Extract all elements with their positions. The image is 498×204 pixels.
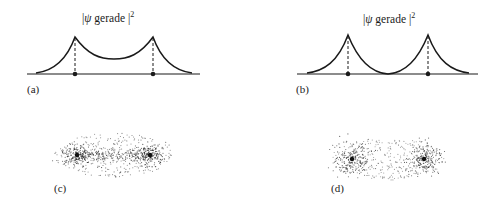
panel-b-nucleus-left — [346, 72, 351, 77]
panel-a-density-curve — [36, 37, 192, 73]
panel-a-nucleus-right — [151, 72, 156, 77]
panel-b-label: (b) — [296, 83, 309, 96]
panel-d-nucleus-left — [350, 157, 354, 161]
panel-c-nucleus-left — [75, 153, 79, 157]
panel-c-electron-cloud — [52, 133, 172, 178]
panel-d-label: (d) — [331, 182, 344, 195]
panel-a-title: |ψ gerade |2 — [82, 10, 134, 25]
panel-d-nucleus-right — [422, 157, 426, 161]
panel-c-label: (c) — [54, 182, 67, 195]
panel-b-title: |ψ gerade |2 — [363, 11, 415, 26]
panel-a-nucleus-left — [73, 72, 78, 77]
panel-d: (d) — [328, 133, 446, 195]
panel-c: (c) — [52, 133, 172, 195]
panel-b-nucleus-right — [426, 72, 431, 77]
panel-b: |ψ gerade |2 (b) — [296, 11, 478, 96]
panel-a: |ψ gerade |2 (a) — [27, 10, 200, 96]
panel-d-electron-cloud — [328, 133, 446, 180]
panel-b-density-curve — [307, 35, 469, 74]
panel-a-label: (a) — [27, 83, 40, 96]
figure-canvas: |ψ gerade |2 (a) |ψ gerade |2 (b) (c) (d… — [0, 0, 498, 204]
panel-c-nucleus-right — [148, 153, 152, 157]
